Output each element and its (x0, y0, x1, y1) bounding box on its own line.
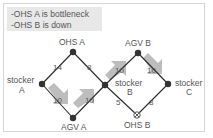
label-agv-b: AGV B (125, 38, 151, 48)
weight-stocker-a-agv-a: 10 (53, 96, 62, 105)
node-ohs-b-down-icon (134, 112, 140, 118)
label-stocker-b-line2: B (127, 87, 133, 97)
weight-ohs-a-stocker-b: 8 (87, 63, 92, 72)
node-stocker-b (102, 82, 108, 88)
label-ohs-b: OHS B (124, 120, 151, 130)
label-stocker-a-line1: stocker (7, 75, 35, 85)
label-ohs-a: OHS A (59, 37, 85, 47)
label-agv-a: AGV A (61, 122, 87, 132)
weight-stocker-a-ohs-a: 14 (53, 63, 62, 72)
node-stocker-a (39, 81, 45, 87)
flow-arrows (48, 53, 162, 108)
weight-stocker-b-ohs-b: 5 (116, 98, 121, 107)
label-stocker-a-line2: A (19, 85, 25, 95)
weight-agv-a-stocker-b: 10 (85, 96, 94, 105)
label-stocker-c-line2: C (186, 87, 192, 97)
node-ohs-a (70, 49, 76, 55)
weight-ohs-b-stocker-c: 8 (149, 98, 154, 107)
node-agv-a (70, 115, 76, 121)
node-agv-b (135, 50, 141, 56)
network-diagram: 14 8 10 10 10 10 5 8 OHS A stocker A AGV… (0, 0, 213, 138)
node-stocker-c (165, 81, 171, 87)
weight-stocker-b-agv-b: 10 (115, 66, 124, 75)
weight-agv-b-stocker-c: 10 (147, 66, 156, 75)
